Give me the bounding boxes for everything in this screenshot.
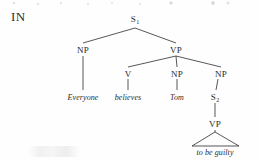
edge-s1-vp-main (135, 28, 176, 43)
tree-node-vp-embedded: VP (209, 119, 221, 129)
edge-vp-v (128, 56, 176, 67)
tree-node-np-subject: NP (77, 45, 89, 55)
tree-node-np-object: NP (171, 69, 183, 79)
tree-leaf-to-be-guilty: to be guilty (196, 148, 233, 157)
tree-node-np-clause: NP (215, 69, 227, 79)
tree-leaf-everyone: Everyone (67, 93, 98, 102)
tree-leaf-believes: believes (115, 93, 142, 102)
tree-node-vp-main: VP (170, 45, 182, 55)
figure-canvas: IN S1 NP VP V NP NP S2 VP E (0, 0, 258, 161)
edge-s1-np-subject (83, 28, 135, 43)
figure-corner-label: IN (11, 9, 26, 25)
elision-triangle (192, 132, 239, 146)
tree-node-s2-label: S (211, 92, 216, 102)
tree-node-v: V (125, 69, 132, 79)
tree-leaf-tom: Tom (170, 93, 184, 102)
tree-node-s2: S2 (211, 92, 219, 102)
tree-node-s1-label: S (131, 14, 136, 24)
scan-noise-artifact (0, 0, 258, 9)
tree-node-s1-subscript: 1 (136, 19, 139, 25)
edge-vp-np-clause (176, 56, 221, 67)
elision-triangle-layer (0, 0, 258, 161)
tree-node-s2-subscript: 2 (216, 97, 219, 103)
tree-edges (0, 0, 258, 161)
edge-vp-np-object (176, 56, 177, 67)
tree-node-s1: S1 (131, 14, 139, 24)
scan-smudge-artifact (28, 146, 80, 157)
edge-np-clause-s2 (216, 79, 218, 90)
